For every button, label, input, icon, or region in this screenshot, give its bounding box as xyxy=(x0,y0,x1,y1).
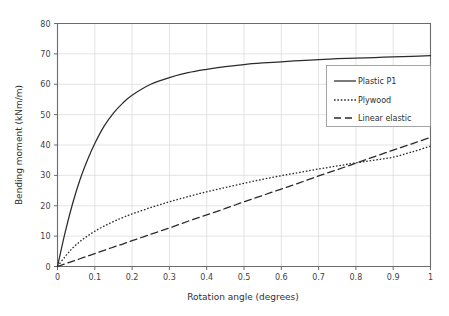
x-tick-label: 0.5 xyxy=(238,273,251,282)
x-tick-label: 0.8 xyxy=(350,273,363,282)
x-tick-label: 0.7 xyxy=(312,273,325,282)
legend-label: Plastic P1 xyxy=(358,77,396,86)
x-tick-label: 0.6 xyxy=(275,273,288,282)
y-tick-label: 0 xyxy=(45,263,50,272)
y-tick-label: 30 xyxy=(40,171,50,180)
y-tick-label: 70 xyxy=(40,50,50,59)
legend-label: Plywood xyxy=(358,96,391,105)
y-tick-label: 10 xyxy=(40,232,50,241)
x-tick-label: 0 xyxy=(55,273,60,282)
chart-legend: Plastic P1PlywoodLinear elastic xyxy=(327,66,431,127)
y-tick-label: 20 xyxy=(40,202,50,211)
chart-container: 00.10.20.30.40.50.60.70.80.91 0102030405… xyxy=(0,0,449,316)
bending-moment-chart: 00.10.20.30.40.50.60.70.80.91 0102030405… xyxy=(0,0,449,316)
x-tick-label: 0.9 xyxy=(387,273,400,282)
x-tick-label: 0.3 xyxy=(163,273,176,282)
y-tick-label: 80 xyxy=(40,20,50,29)
y-axis-title: Bending moment (kNm/m) xyxy=(14,85,24,205)
chart-background xyxy=(0,0,449,316)
x-axis-title: Rotation angle (degrees) xyxy=(187,292,299,302)
y-tick-label: 60 xyxy=(40,80,50,89)
x-tick-label: 0.2 xyxy=(126,273,139,282)
y-axis-tick-labels: 01020304050607080 xyxy=(40,20,50,272)
x-tick-label: 0.1 xyxy=(88,273,101,282)
legend-label: Linear elastic xyxy=(358,114,411,123)
x-tick-label: 0.4 xyxy=(200,273,213,282)
x-tick-label: 1 xyxy=(428,273,433,282)
y-tick-label: 40 xyxy=(40,141,50,150)
y-tick-label: 50 xyxy=(40,111,50,120)
